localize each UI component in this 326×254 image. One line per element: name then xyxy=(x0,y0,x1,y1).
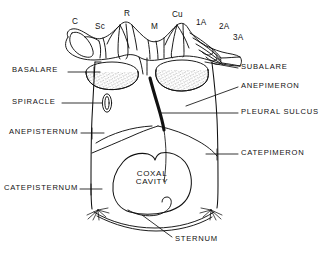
axillary-sclerites xyxy=(70,24,189,59)
callout-basalare: BASALARE xyxy=(12,66,58,74)
internal-sutures xyxy=(92,126,217,156)
callout-anepisternum: ANEPISTERNUM xyxy=(9,128,78,136)
spiracle-shape xyxy=(102,94,111,112)
callout-pleural-sulcus: PLEURAL SULCUS xyxy=(241,108,319,116)
vein-label-anal-1: 1A xyxy=(196,19,206,28)
pleural-sulcus-line xyxy=(150,78,166,182)
callout-spiracle: SPIRACLE xyxy=(12,98,56,106)
callout-catepisternum: CATEPISTERNUM xyxy=(4,184,78,192)
vein-label-anal-3: 3A xyxy=(233,34,243,43)
subalare-sclerite xyxy=(156,60,209,91)
callout-catepimeron: CATEPIMERON xyxy=(241,149,304,157)
thorax-pleuron-figure: C Sc R M Cu 1A 2A 3A BASALARE SPIRACLE A… xyxy=(0,0,326,254)
callout-anepimeron: ANEPIMERON xyxy=(241,82,300,90)
vein-label-costa: C xyxy=(72,18,78,27)
vein-label-anal-2: 2A xyxy=(219,23,229,32)
vein-label-radius: R xyxy=(124,10,130,19)
label-coxal-cavity: COXAL CAVITY xyxy=(124,170,180,187)
coxal-cavity-line-2: CAVITY xyxy=(124,178,180,186)
callout-subalare: SUBALARE xyxy=(241,63,288,71)
vein-label-subcosta: Sc xyxy=(95,23,105,32)
sternum-region xyxy=(87,208,222,231)
vein-label-media: M xyxy=(151,23,158,32)
callout-sternum: STERNUM xyxy=(175,235,218,243)
vein-label-cubitus: Cu xyxy=(172,11,183,20)
